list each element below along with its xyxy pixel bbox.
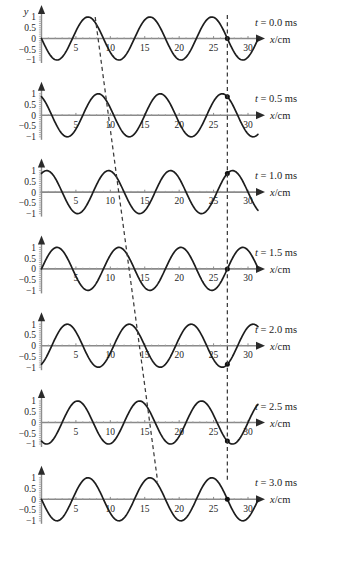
- x-tick-label: 5: [74, 196, 79, 206]
- x-tick-label: 30: [243, 273, 253, 283]
- x-tick-label: 25: [209, 120, 219, 130]
- y-tick-label: 0: [31, 34, 36, 44]
- time-label: t = 1.0 ms: [255, 170, 297, 181]
- wave-panel: 10.50−0.5−151015202530t = 1.0 msx/cm: [19, 159, 297, 219]
- x-axis-label: x/cm: [269, 341, 290, 352]
- tracked-particle-dot: [225, 497, 230, 502]
- y-tick-label: −1: [26, 132, 36, 142]
- y-axis-arrow: [38, 5, 45, 14]
- y-tick-label: 1: [31, 89, 36, 99]
- y-tick-label: −0.5: [19, 121, 36, 131]
- y-axis-arrow: [38, 159, 45, 168]
- y-tick-label: −1: [26, 363, 36, 373]
- time-label: t = 3.0 ms: [255, 477, 297, 488]
- time-label: t = 2.5 ms: [255, 401, 297, 412]
- x-tick-label: 15: [140, 427, 150, 437]
- y-tick-label: −0.5: [19, 275, 36, 285]
- y-tick-label: −1: [26, 439, 36, 449]
- y-tick-label: 0.5: [24, 330, 36, 340]
- x-tick-label: 5: [74, 427, 79, 437]
- wave-snapshot-figure: 10.50−0.5−151015202530t = 0.0 msx/cm10.5…: [0, 0, 338, 568]
- y-tick-label: 0: [31, 111, 36, 121]
- y-tick-label: −0.5: [19, 505, 36, 515]
- x-axis-label: x/cm: [269, 110, 290, 121]
- x-tick-label: 20: [174, 504, 184, 514]
- x-tick-label: 20: [174, 196, 184, 206]
- wave-panel: 10.50−0.5−151015202530t = 2.5 msx/cm: [19, 389, 297, 449]
- x-tick-label: 25: [209, 273, 219, 283]
- y-tick-label: −1: [26, 516, 36, 526]
- x-tick-label: 15: [140, 504, 150, 514]
- x-tick-label: 20: [174, 350, 184, 360]
- x-tick-label: 20: [174, 273, 184, 283]
- wave-panel: 10.50−0.5−151015202530t = 0.5 msx/cm: [19, 82, 297, 142]
- x-tick-label: 25: [209, 43, 219, 53]
- y-tick-label: 0: [31, 264, 36, 274]
- y-tick-label: 1: [31, 243, 36, 253]
- time-label: t = 0.5 ms: [255, 93, 297, 104]
- crest-tracking-line: [95, 17, 157, 482]
- y-tick-label: 1: [31, 473, 36, 483]
- y-tick-label: 0.5: [24, 254, 36, 264]
- y-tick-label: 0.5: [24, 484, 36, 494]
- y-tick-label: 1: [31, 396, 36, 406]
- y-tick-label: −0.5: [19, 198, 36, 208]
- y-tick-label: 0.5: [24, 177, 36, 187]
- x-axis-arrow: [256, 188, 265, 196]
- x-tick-label: 30: [243, 350, 253, 360]
- x-axis-label: x/cm: [269, 34, 290, 45]
- y-tick-label: −1: [26, 209, 36, 219]
- wave-panel: 10.50−0.5−151015202530t = 0.0 msx/cm: [19, 5, 297, 65]
- x-axis-label: x/cm: [269, 494, 290, 505]
- x-axis-arrow: [256, 342, 265, 350]
- y-axis-arrow: [38, 312, 45, 321]
- y-axis-arrow: [38, 466, 45, 475]
- x-tick-label: 25: [209, 427, 219, 437]
- time-label: t = 0.0 ms: [255, 17, 297, 28]
- x-tick-label: 5: [74, 504, 79, 514]
- y-axis-arrow: [38, 82, 45, 91]
- y-tick-label: 0: [31, 341, 36, 351]
- x-tick-label: 5: [74, 43, 79, 53]
- y-axis-label: y: [23, 6, 29, 17]
- x-axis-label: x/cm: [269, 264, 290, 275]
- y-tick-label: 0: [31, 418, 36, 428]
- x-tick-label: 20: [174, 43, 184, 53]
- y-tick-label: 0: [31, 188, 36, 198]
- x-tick-label: 10: [106, 196, 116, 206]
- y-tick-label: 0.5: [24, 23, 36, 33]
- y-tick-label: −0.5: [19, 352, 36, 362]
- x-tick-label: 15: [140, 43, 150, 53]
- y-tick-label: 0.5: [24, 407, 36, 417]
- y-axis-arrow: [38, 235, 45, 244]
- y-tick-label: −0.5: [19, 429, 36, 439]
- x-axis-label: x/cm: [269, 418, 290, 429]
- x-tick-label: 5: [74, 350, 79, 360]
- x-axis-arrow: [256, 111, 265, 119]
- wave-panel: 10.50−0.5−151015202530t = 2.0 msx/cm: [19, 312, 297, 372]
- y-tick-label: −0.5: [19, 45, 36, 55]
- y-tick-label: 0: [31, 495, 36, 505]
- y-tick-label: −1: [26, 55, 36, 65]
- wave-panel: 10.50−0.5−151015202530t = 1.5 msx/cm: [19, 235, 297, 295]
- y-tick-label: 1: [31, 12, 36, 22]
- y-tick-label: 0.5: [24, 100, 36, 110]
- time-label: t = 1.5 ms: [255, 247, 297, 258]
- x-tick-label: 10: [106, 120, 116, 130]
- time-label: t = 2.0 ms: [255, 324, 297, 335]
- x-axis-arrow: [256, 419, 265, 427]
- x-tick-label: 10: [106, 273, 116, 283]
- x-axis-label: x/cm: [269, 187, 290, 198]
- y-tick-label: 1: [31, 320, 36, 330]
- y-axis-arrow: [38, 389, 45, 398]
- y-tick-label: −1: [26, 286, 36, 296]
- wave-panel: 10.50−0.5−151015202530t = 3.0 msx/cm: [19, 466, 297, 526]
- x-tick-label: 10: [106, 427, 116, 437]
- x-tick-label: 25: [209, 504, 219, 514]
- y-tick-label: 1: [31, 166, 36, 176]
- wave-figure-svg: 10.50−0.5−151015202530t = 0.0 msx/cm10.5…: [0, 0, 338, 568]
